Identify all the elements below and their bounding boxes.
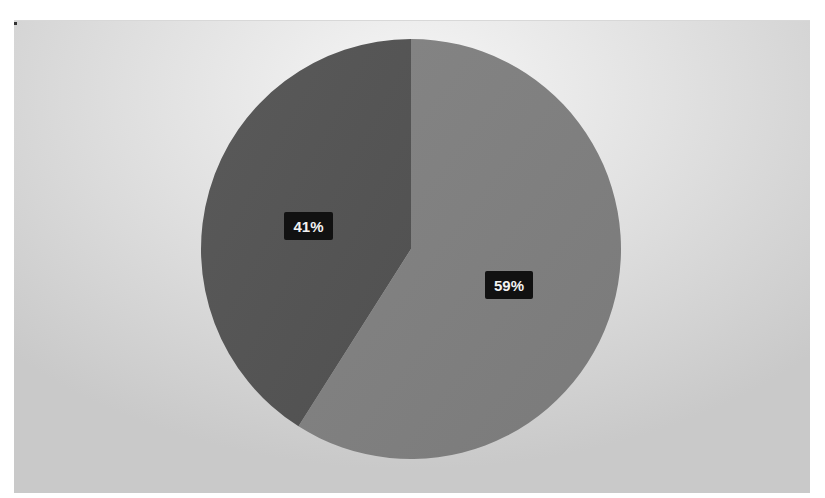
data-label-59: 59% <box>485 271 533 299</box>
data-label-41: 41% <box>284 212 333 240</box>
pie-slices <box>201 39 621 459</box>
pie-chart <box>0 0 825 498</box>
